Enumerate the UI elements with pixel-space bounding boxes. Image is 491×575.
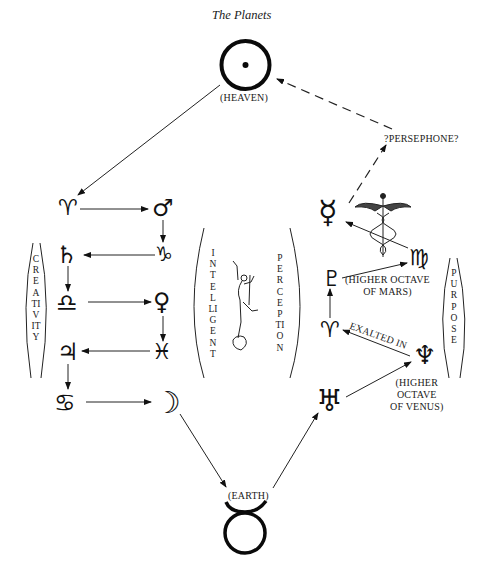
uranus-icon: ♅ [316, 386, 343, 416]
higher-octave-mars-line2: OF MARS) [345, 286, 430, 298]
virgo-icon: ♍ [409, 247, 429, 269]
venus-icon: ♀ [153, 290, 171, 314]
pluto-icon: ♇ [322, 268, 342, 290]
purpose-label: PURPOSE [449, 268, 459, 346]
intelligent-label: INTELLIGENT [208, 248, 218, 360]
jupiter-icon: ♃ [57, 340, 79, 364]
higher-octave-venus-line2: OCTAVE [390, 389, 444, 401]
higher-octave-venus-label: (HIGHER OCTAVE OF VENUS) [390, 377, 444, 413]
persephone-label: ?PERSEPHONE? [384, 133, 459, 144]
libra-icon: ♎ [56, 291, 78, 315]
mercury-statue-icon [233, 261, 258, 350]
saturn-icon: ♄ [56, 243, 78, 267]
aries-icon: ♈ [58, 197, 78, 219]
caduceus-icon [355, 194, 411, 258]
earth-label: (EARTH) [228, 490, 269, 501]
north-node-icon: ♑ [155, 244, 173, 264]
creativity-label: CREATIVITY [31, 254, 41, 344]
diagram-title: The Planets [212, 8, 271, 23]
mercury-icon: ☿ [318, 196, 338, 228]
heaven-label: (HEAVEN) [220, 92, 268, 103]
perception-label: PERCEPTION [275, 253, 285, 354]
neptune-icon: ♆ [413, 342, 436, 368]
higher-octave-mars-line1: (HIGHER OCTAVE [345, 274, 430, 286]
taurus-earth-symbol [225, 501, 266, 553]
sun-symbol [222, 41, 270, 89]
planets-diagram: The Planets (HEAVEN) ?PERSEPHONE? ♈ ♂ ♑ … [0, 0, 491, 575]
moon-icon: ☽ [154, 388, 181, 418]
higher-octave-venus-line3: OF VENUS) [390, 401, 444, 413]
cancer-icon: ♋ [54, 391, 76, 415]
aries-right-icon: ♈ [320, 319, 340, 341]
higher-octave-mars-label: (HIGHER OCTAVE OF MARS) [345, 274, 430, 298]
higher-octave-venus-line1: (HIGHER [390, 377, 444, 389]
mars-icon: ♂ [152, 196, 174, 220]
pisces-icon: ♓ [152, 341, 172, 363]
